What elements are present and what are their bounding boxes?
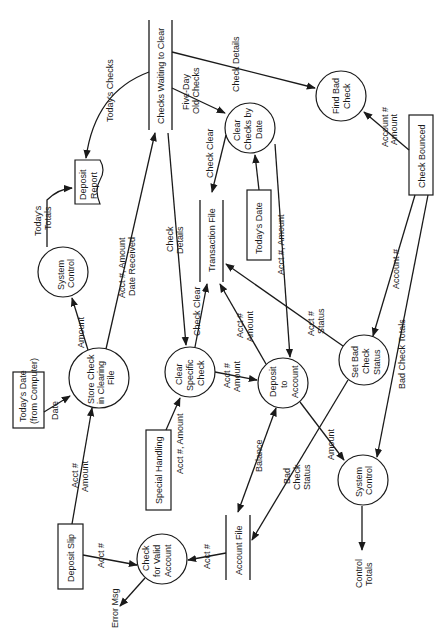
process-set-bad-check-status: Set Bad Check Status: [339, 335, 389, 385]
process-clear-checks-by-date: Clear Checks by Date: [225, 103, 275, 153]
entity-deposit-slip: Deposit Slip: [58, 524, 83, 589]
label-account-num: Account #: [391, 249, 401, 289]
svg-text:Check: Check: [141, 545, 151, 571]
label-acct-amount-2a: Acct #: [235, 313, 245, 338]
svg-text:to: to: [279, 380, 289, 388]
svg-text:Check: Check: [361, 348, 371, 374]
label-check-details-mid-2: Details: [175, 226, 185, 254]
label-acct-amount-date-1: Acct #, Amount: [117, 237, 127, 298]
data-store-label: Transaction File: [207, 208, 217, 272]
entity-special-handling: Special Handling: [146, 430, 171, 510]
svg-text:Deposit Slip: Deposit Slip: [66, 534, 76, 582]
label-acct-amount-2b: Amount: [245, 310, 255, 342]
label-todays-totals-2: Totals: [43, 206, 53, 230]
label-todays-totals-1: Today's: [33, 205, 43, 236]
label-acct-amount-deposit-2: Amount: [232, 360, 242, 392]
process-store-check: Store Check in Clearing File: [69, 348, 129, 408]
svg-text:Report: Report: [89, 171, 99, 199]
label-five-day-1: Five-Day: [181, 73, 191, 110]
label-date: Date: [50, 401, 60, 420]
entity-todays-date: Today's Date: [247, 190, 271, 260]
svg-text:System: System: [354, 467, 364, 497]
label-bad-check-status-1: Bad: [282, 468, 292, 484]
process-system-control-top: System Control: [38, 247, 88, 297]
svg-text:Special Handling: Special Handling: [154, 436, 164, 504]
label-acct-amount-special: Acct #, Amount: [175, 413, 185, 474]
label-acct-amount-1b: Amount: [80, 460, 90, 492]
label-error-msg: Error Msg: [110, 588, 120, 628]
label-bad-check-status-2: Check: [292, 464, 302, 490]
label-bad-check-status-3: Status: [302, 464, 312, 490]
svg-text:Account: Account: [163, 544, 173, 577]
label-check-details-top: Check Details: [231, 36, 241, 92]
svg-text:in Clearing: in Clearing: [96, 361, 106, 404]
process-deposit-to-account: Deposit to Account: [258, 358, 308, 408]
flow-todays-date: [255, 155, 259, 190]
label-amount-2: Amount: [326, 428, 336, 460]
svg-text:Specific: Specific: [185, 359, 195, 391]
label-check-details-mid-1: Check: [165, 226, 175, 252]
label-control-totals-2: Totals: [364, 562, 374, 586]
svg-text:Clear: Clear: [174, 363, 184, 385]
svg-text:(from Computer): (from Computer): [29, 358, 39, 424]
flow-amount-2: [300, 402, 344, 460]
svg-text:Store Check: Store Check: [86, 354, 96, 404]
svg-text:Check Bounced: Check Bounced: [417, 124, 427, 188]
svg-text:Checks by: Checks by: [243, 107, 253, 150]
data-flow-diagram: Checks Waiting to Clear Transaction File…: [0, 0, 445, 630]
label-control-totals-1: Control: [354, 559, 364, 588]
label-acct-amount-deposit-1: Acct #: [222, 363, 232, 388]
label-acct-amount-date-2: Date Received: [127, 237, 137, 296]
label-acct-num-2: Acct #: [96, 543, 106, 568]
svg-text:Status: Status: [372, 349, 382, 375]
process-system-control-bottom: System Control: [338, 455, 388, 505]
label-acct-status-2: Status: [316, 308, 326, 334]
document-deposit-report: Deposit Report: [75, 160, 103, 204]
svg-text:Find Bad: Find Bad: [331, 78, 341, 114]
svg-text:Clear: Clear: [232, 119, 242, 141]
flow-todays-checks: [86, 72, 149, 158]
svg-text:Deposit: Deposit: [78, 169, 88, 200]
svg-text:Control: Control: [66, 259, 76, 288]
data-store-transaction-file: Transaction File: [200, 200, 223, 282]
data-store-checks-waiting-to-clear: Checks Waiting to Clear: [149, 20, 172, 130]
data-store-account-file: Account File: [226, 515, 250, 580]
label-balance: Balance: [254, 439, 264, 472]
svg-text:Account: Account: [290, 365, 300, 398]
svg-text:Set Bad: Set Bad: [350, 346, 360, 378]
process-find-bad-check: Find Bad Check: [316, 71, 366, 121]
flow-error-msg: [120, 578, 145, 606]
svg-text:System: System: [56, 260, 66, 290]
label-todays-checks: Today's Checks: [105, 59, 115, 122]
label-five-day-2: Old Checks: [191, 67, 201, 114]
svg-text:Date: Date: [254, 120, 264, 139]
process-check-valid-account: Check for Valid Account: [137, 534, 187, 584]
entity-check-bounced: Check Bounced: [409, 115, 433, 195]
svg-text:File: File: [106, 370, 116, 385]
svg-text:Today's Date: Today's Date: [254, 202, 264, 254]
data-store-label: Checks Waiting to Clear: [156, 28, 166, 124]
label-acct-amount-1a: Acct #: [70, 463, 80, 488]
svg-text:Check: Check: [196, 360, 206, 386]
svg-text:Control: Control: [364, 466, 374, 495]
label-check-clear-1: Check Clear: [205, 128, 215, 178]
label-bad-check-totals: Bad Check Totals: [397, 319, 407, 389]
label-acct-status-1: Acct #: [306, 311, 316, 336]
svg-text:for Valid: for Valid: [152, 545, 162, 577]
svg-text:Today's Date: Today's Date: [18, 370, 28, 422]
label-acct-num-1: Acct #: [202, 544, 212, 569]
label-amount-1: Amount: [76, 316, 86, 348]
label-check-clear-2: Check Clear: [192, 286, 202, 336]
svg-text:Check: Check: [342, 83, 352, 109]
flow-acct-num-2: [83, 555, 137, 565]
label-acct-amount-right: Acct #, Amount: [276, 214, 286, 275]
svg-text:Deposit: Deposit: [268, 366, 278, 397]
process-clear-specific-check: Clear Specific Check: [165, 347, 215, 397]
entity-todays-date-computer: Today's Date (from Computer): [13, 358, 44, 428]
data-store-label: Account File: [234, 525, 244, 575]
label-account-amount-2: Amount: [389, 113, 399, 145]
